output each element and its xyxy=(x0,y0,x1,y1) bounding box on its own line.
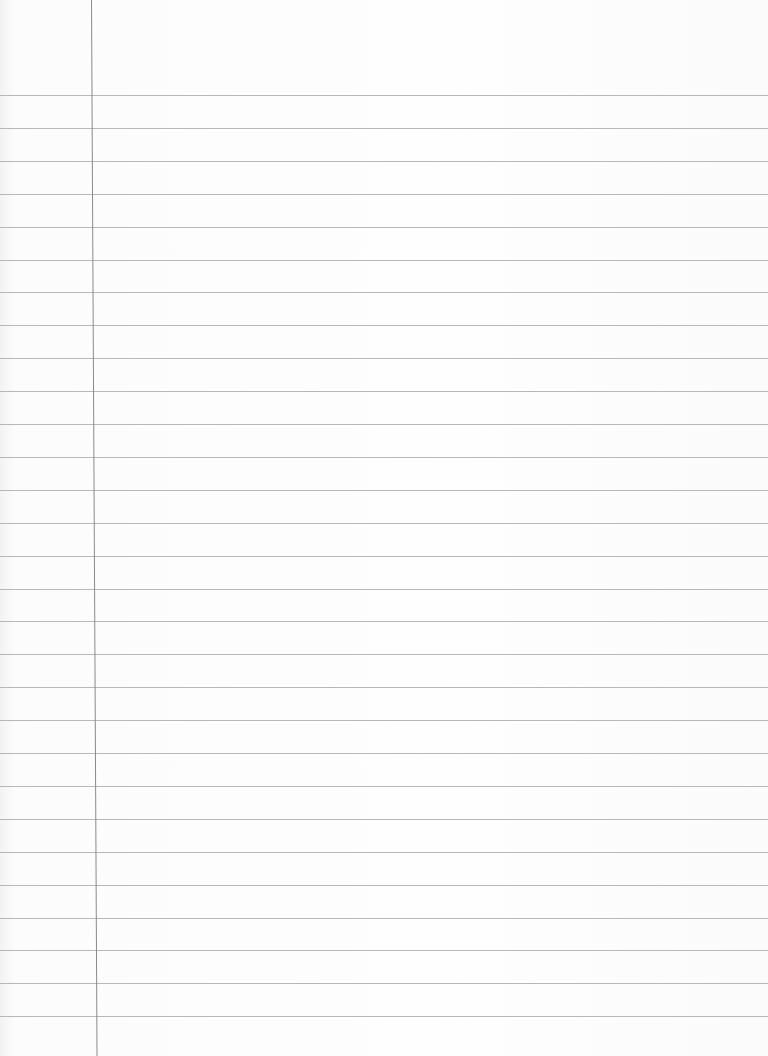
ruled-line xyxy=(0,918,768,919)
ruled-line xyxy=(0,786,768,787)
ruled-line xyxy=(0,687,768,688)
ruled-line xyxy=(0,983,768,984)
ruled-line xyxy=(0,292,768,293)
ruled-line xyxy=(0,589,768,590)
ruled-line xyxy=(0,424,768,425)
ruled-line xyxy=(0,457,768,458)
ruled-line xyxy=(0,161,768,162)
ruled-line xyxy=(0,720,768,721)
ruled-line xyxy=(0,556,768,557)
ruled-line xyxy=(0,358,768,359)
ruled-line xyxy=(0,852,768,853)
ruled-line xyxy=(0,194,768,195)
ruled-line xyxy=(0,260,768,261)
ruled-line xyxy=(0,325,768,326)
ruled-line xyxy=(0,819,768,820)
ruled-line xyxy=(0,490,768,491)
ruled-line xyxy=(0,950,768,951)
lined-paper-page xyxy=(0,0,768,1056)
ruled-line xyxy=(0,128,768,129)
ruled-line xyxy=(0,227,768,228)
ruled-line xyxy=(0,391,768,392)
ruled-line xyxy=(0,1016,768,1017)
ruled-line xyxy=(0,885,768,886)
ruled-line xyxy=(0,621,768,622)
ruled-line xyxy=(0,654,768,655)
ruled-line xyxy=(0,753,768,754)
ruled-line xyxy=(0,95,768,96)
margin-line xyxy=(91,0,98,1056)
ruled-line xyxy=(0,523,768,524)
